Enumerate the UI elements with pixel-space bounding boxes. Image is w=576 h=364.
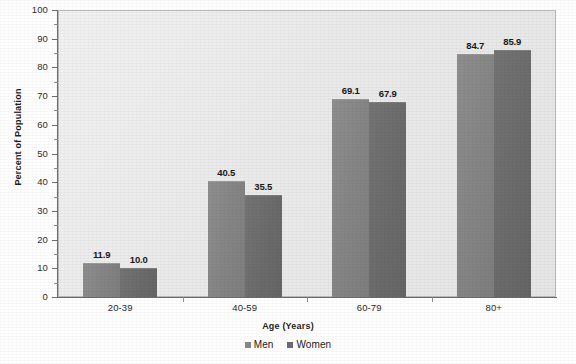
y-axis-tick-label-wrap: 60 — [0, 120, 48, 130]
y-axis-tick-minor — [54, 82, 58, 83]
x-axis-tick — [307, 297, 308, 302]
y-axis-tick-label: 40 — [2, 177, 48, 187]
bar-value-label: 40.5 — [200, 168, 253, 178]
y-axis-tick-label: 20 — [2, 235, 48, 245]
y-axis-tick-label: 100 — [2, 5, 48, 15]
y-axis-tick-major — [52, 39, 58, 40]
y-axis-tick-minor — [54, 254, 58, 255]
y-axis-tick-label-wrap: 80 — [0, 62, 48, 72]
y-axis-tick-major — [52, 182, 58, 183]
x-axis-category-label: 20-39 — [80, 303, 160, 313]
bar-men-20-39 — [83, 263, 120, 297]
y-axis-tick-label-wrap: 20 — [0, 235, 48, 245]
bar-men-60-79 — [332, 99, 369, 297]
y-axis-tick-major — [52, 297, 58, 298]
y-axis-tick-label-wrap: 90 — [0, 34, 48, 44]
y-axis-tick-minor — [54, 197, 58, 198]
bar-value-label: 35.5 — [237, 182, 290, 192]
y-axis-tick-label: 60 — [2, 120, 48, 130]
x-axis-title: Age (Years) — [0, 321, 576, 331]
y-axis-tick-minor — [54, 139, 58, 140]
x-axis-category-label: 80+ — [454, 303, 534, 313]
bar-women-20-39 — [120, 268, 157, 297]
y-axis-tick-major — [52, 268, 58, 269]
legend-item-men: Men — [245, 340, 274, 350]
y-axis-tick-label-wrap: 10 — [0, 263, 48, 273]
y-axis-title: Percent of Population — [13, 67, 23, 207]
bar-men-80+ — [457, 54, 494, 297]
bar-women-60-79 — [369, 102, 406, 297]
y-axis-tick-major — [52, 67, 58, 68]
bar-women-80+ — [494, 50, 531, 297]
bar-women-40-59 — [245, 195, 282, 297]
y-axis-tick-major — [52, 10, 58, 11]
chart-legend: Men Women — [0, 340, 576, 350]
y-axis-tick-minor — [54, 53, 58, 54]
y-axis-tick-major — [52, 96, 58, 97]
bar-value-label: 10.0 — [112, 255, 165, 265]
y-axis-tick-label: 30 — [2, 206, 48, 216]
y-axis-tick-label-wrap: 100 — [0, 5, 48, 15]
square-marker-icon — [287, 342, 293, 348]
x-axis-category-label: 40-59 — [205, 303, 285, 313]
y-axis-tick-label: 80 — [2, 62, 48, 72]
y-axis-tick-major — [52, 154, 58, 155]
y-axis-tick-label-wrap: 50 — [0, 149, 48, 159]
y-axis-tick-minor — [54, 283, 58, 284]
y-axis-tick-major — [52, 211, 58, 212]
y-axis-tick-label-wrap: 30 — [0, 206, 48, 216]
bar-value-label: 85.9 — [486, 37, 539, 47]
y-axis-tick-label: 10 — [2, 263, 48, 273]
legend-label-women: Women — [296, 340, 331, 350]
y-axis-tick-minor — [54, 110, 58, 111]
y-axis-tick-label: 70 — [2, 91, 48, 101]
y-axis-tick-label: 90 — [2, 34, 48, 44]
y-axis-tick-label: 0 — [2, 292, 48, 302]
legend-item-women: Women — [287, 340, 331, 350]
x-axis-tick — [183, 297, 184, 302]
y-axis-tick-major — [52, 125, 58, 126]
y-axis-tick-minor — [54, 168, 58, 169]
y-axis-tick-minor — [54, 24, 58, 25]
y-axis-tick-label-wrap: 70 — [0, 91, 48, 101]
y-axis-tick-major — [52, 240, 58, 241]
legend-label-men: Men — [254, 340, 274, 350]
y-axis-tick-label-wrap: 40 — [0, 177, 48, 187]
y-axis-tick-label-wrap: 0 — [0, 292, 48, 302]
square-marker-icon — [245, 342, 251, 348]
y-axis-tick-minor — [54, 225, 58, 226]
x-axis-category-label: 60-79 — [329, 303, 409, 313]
bar-value-label: 67.9 — [361, 89, 414, 99]
bar-men-40-59 — [208, 181, 245, 297]
x-axis-tick — [432, 297, 433, 302]
y-axis-tick-label: 50 — [2, 149, 48, 159]
bar-chart-figure: 0102030405060708090100 Percent of Popula… — [0, 0, 576, 364]
